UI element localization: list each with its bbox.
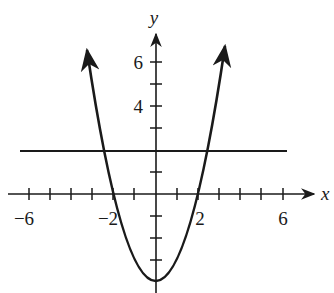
y-axis-label: y <box>148 7 159 28</box>
x-tick-label-6: 6 <box>278 208 288 229</box>
x-axis-label: x <box>320 183 330 204</box>
graph-figure: −6 −2 2 6 6 4 x y <box>0 0 334 293</box>
y-tick-label-4: 4 <box>134 96 144 117</box>
x-tick-label-neg6: −6 <box>14 208 34 229</box>
x-tick-label-neg2: −2 <box>98 208 118 229</box>
y-tick-label-6: 6 <box>134 52 144 73</box>
x-tick-label-2: 2 <box>195 208 205 229</box>
